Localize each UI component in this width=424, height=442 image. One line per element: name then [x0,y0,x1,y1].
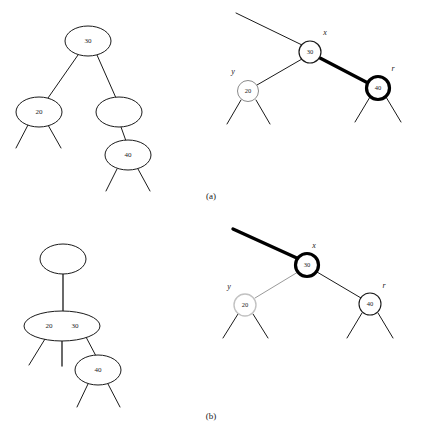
node-key-label: 30 [85,37,93,45]
node-key-label: 40 [367,300,374,307]
node-key-label: 20 [46,322,54,330]
node-key-label: 40 [95,366,103,374]
tree-node-ellipse[interactable] [96,97,142,127]
node-key-label: 30 [304,261,311,268]
subfigure-caption: (b) [206,411,217,421]
figure-canvas: 302040302040xyr203040302040xyr (a)(b) [0,0,424,442]
node-key-label: 30 [307,48,314,55]
tree-node-circle[interactable]: 20 [234,294,256,316]
subfigure-caption: (a) [206,191,216,201]
tree-node-ellipse[interactable]: 40 [75,355,121,385]
tree-node-ellipse[interactable]: 2030 [24,311,100,341]
node-shape [40,244,86,274]
tree-node-ellipse[interactable]: 40 [105,140,151,170]
tree-node-circle[interactable]: 20 [238,81,259,102]
tree-node-ellipse[interactable]: 30 [65,26,111,56]
node-shape [96,97,142,127]
node-key-label: 30 [72,322,80,330]
tree-node-ellipse[interactable] [40,244,86,274]
node-key-label: 20 [36,108,44,116]
node-variable-label: x [311,241,316,250]
tree-node-circle[interactable]: 40 [359,293,381,315]
figure-root: 302040302040xyr203040302040xyr (a)(b) [0,0,424,442]
figure-background [0,0,424,442]
node-key-label: 20 [242,301,249,308]
node-variable-label: y [230,67,235,76]
node-key-label: 20 [245,87,252,94]
node-key-label: 40 [375,84,382,91]
tree-node-circle[interactable]: 30 [299,41,321,63]
node-shape [24,311,100,341]
node-variable-label: y [226,282,231,291]
node-variable-label: x [322,28,327,37]
tree-node-ellipse[interactable]: 20 [16,97,62,127]
tree-node-circle[interactable]: 30 [296,254,319,277]
tree-node-circle[interactable]: 40 [367,77,390,100]
node-key-label: 40 [125,151,133,159]
